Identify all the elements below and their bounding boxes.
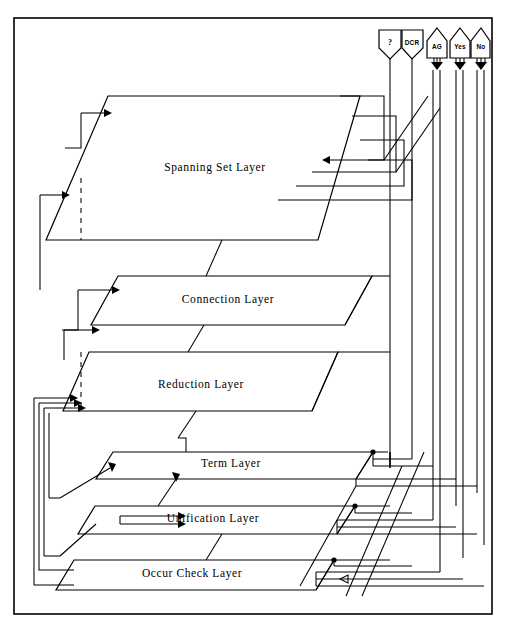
- layer-connection-label: Connection Layer: [182, 293, 274, 306]
- layer-spanning-set-label: Spanning Set Layer: [164, 161, 266, 174]
- port-no-label: No: [477, 43, 486, 50]
- layer-term-label: Term Layer: [201, 457, 261, 470]
- layer-occur-check-label: Occur Check Layer: [142, 567, 242, 580]
- wire-unification-out: [337, 503, 477, 534]
- layer-reduction-label: Reduction Layer: [158, 378, 244, 391]
- port-arrowheads: [431, 58, 487, 70]
- port-bus-lines: [433, 70, 484, 572]
- riser-occur-to-unification: [206, 534, 222, 560]
- left-bus-bundle: [34, 398, 62, 585]
- port-dcr-label: DCR: [405, 39, 420, 46]
- port-ag-label: AG: [432, 43, 442, 50]
- wire-occur-check-out: [316, 557, 484, 586]
- port-query-label: ?: [388, 38, 392, 47]
- riser-reduction-to-connection: [188, 325, 204, 352]
- riser-term-to-reduction: [178, 411, 196, 452]
- wire-term-out: [356, 449, 477, 486]
- port-yes-label: Yes: [454, 43, 466, 50]
- riser-connection-to-spanning: [206, 240, 222, 276]
- diagram-canvas: ? DCR AG Yes No Spanning Set Layer Conne…: [0, 0, 506, 632]
- architecture-diagram: ? DCR AG Yes No Spanning Set Layer Conne…: [0, 0, 506, 632]
